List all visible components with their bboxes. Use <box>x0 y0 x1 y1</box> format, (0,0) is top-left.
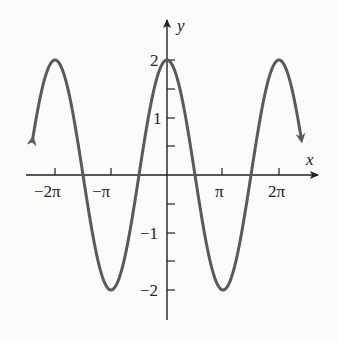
x-tick-label: −π <box>92 182 111 201</box>
y-tick-label: 2 <box>150 51 159 70</box>
y-axis-label: y <box>175 16 185 35</box>
x-tick-label: π <box>215 182 224 201</box>
cosine-graph: y x −2π −π π 2π 2 1 −1 −2 <box>0 0 338 343</box>
x-axis-label: x <box>305 150 314 169</box>
y-tick-label: 1 <box>153 109 162 128</box>
x-tick-label: −2π <box>34 182 61 201</box>
y-tick-label: −2 <box>140 281 158 300</box>
x-tick-label: 2π <box>268 182 286 201</box>
y-tick-label: −1 <box>140 224 158 243</box>
